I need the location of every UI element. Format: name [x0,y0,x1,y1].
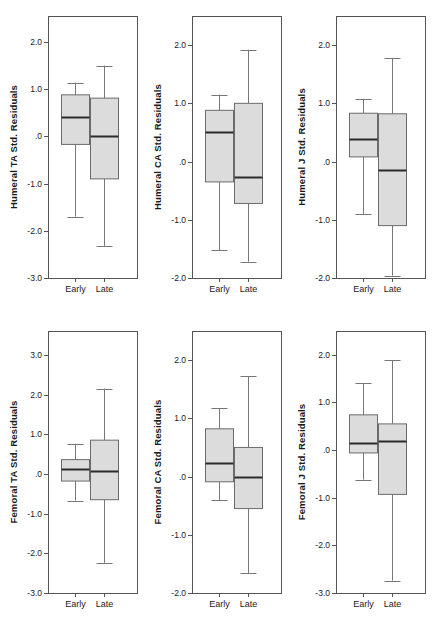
x-tick-label: Early [65,599,86,609]
iqr-box [206,429,234,482]
y-tick-label: -2.0 [171,588,186,598]
y-tick-label: -3.0 [315,588,330,598]
y-tick-label: -1.0 [171,215,186,225]
y-tick-label: 2.0 [30,390,42,400]
y-tick-label: 1.0 [318,98,330,108]
y-tick-label: -2.0 [315,540,330,550]
y-axis-title: Humeral TA Std. Residuals [8,85,19,209]
box-late [379,58,407,277]
y-tick-label: -2.0 [171,273,186,283]
y-tick-label: .0 [323,445,330,455]
x-tick-label: Early [353,284,374,294]
boxplot-panel-1: -2.0-1.0.01.02.0Humeral CA Std. Residual… [144,0,288,315]
y-tick-label: -1.0 [315,215,330,225]
iqr-box [62,95,90,145]
x-axis: EarlyLate [209,593,257,609]
y-tick-label: -3.0 [27,273,42,283]
y-tick-label: -2.0 [27,548,42,558]
y-tick-label: 1.0 [174,413,186,423]
y-axis-title: Humeral J Std. Residuals [296,88,307,206]
y-tick-label: -3.0 [27,588,42,598]
y-tick-label: .0 [323,157,330,167]
x-tick-label: Late [96,284,114,294]
iqr-box [235,103,263,203]
y-tick-label: .0 [179,157,186,167]
x-axis: EarlyLate [353,593,401,609]
x-axis: EarlyLate [65,593,113,609]
x-tick-label: Early [209,284,230,294]
boxplot-panel-0: -3.0-2.0-1.0.01.02.0Humeral TA Std. Resi… [0,0,144,315]
box-early [206,408,234,500]
y-tick-label: -2.0 [315,273,330,283]
y-tick-label: 1.0 [30,84,42,94]
iqr-box [91,440,119,500]
y-axis: -3.0-2.0-1.0.01.02.0 [27,37,48,283]
y-tick-label: -1.0 [27,179,42,189]
box-late [235,50,263,263]
iqr-box [379,424,407,495]
y-tick-label: 2.0 [318,350,330,360]
y-tick-label: 1.0 [174,98,186,108]
x-axis: EarlyLate [353,278,401,294]
boxplot-panel-4: -2.0-1.0.01.02.0Femoral CA Std. Residual… [144,315,288,630]
iqr-box [350,113,378,157]
x-tick-label: Late [384,284,402,294]
x-axis: EarlyLate [65,278,113,294]
x-tick-label: Early [65,284,86,294]
y-tick-label: -1.0 [171,530,186,540]
iqr-box [206,110,234,182]
y-tick-label: 1.0 [318,397,330,407]
y-axis-title: Femoral J Std. Residuals [296,404,307,521]
y-axis: -2.0-1.0.01.02.0 [171,355,192,598]
y-tick-label: -2.0 [27,226,42,236]
y-axis-title: Femoral TA Std. Residuals [8,400,19,523]
y-tick-label: 1.0 [30,429,42,439]
y-tick-label: .0 [179,472,186,482]
y-tick-label: -1.0 [315,493,330,503]
x-tick-label: Early [353,599,374,609]
box-early [350,383,378,480]
box-early [62,83,90,218]
y-axis: -3.0-2.0-1.0.01.02.0 [315,350,336,598]
y-tick-label: .0 [35,469,42,479]
box-late [91,389,119,564]
iqr-box [91,98,119,179]
x-tick-label: Late [240,284,258,294]
y-tick-label: 3.0 [30,350,42,360]
y-axis-title: Humeral CA Std. Residuals [152,84,163,210]
x-tick-label: Late [96,599,114,609]
boxplot-panel-2: -2.0-1.0.01.02.0Humeral J Std. Residuals… [288,0,432,315]
box-early [206,95,234,251]
y-axis-title: Femoral CA Std. Residuals [152,400,163,525]
x-tick-label: Late [384,599,402,609]
y-tick-label: 2.0 [318,40,330,50]
boxplot-panel-5: -3.0-2.0-1.0.01.02.0Femoral J Std. Resid… [288,315,432,630]
y-axis: -2.0-1.0.01.02.0 [315,40,336,283]
box-late [379,360,407,581]
y-tick-label: 2.0 [174,40,186,50]
box-late [91,66,119,247]
boxplot-panel-3: -3.0-2.0-1.0.01.02.03.0Femoral TA Std. R… [0,315,144,630]
x-tick-label: Late [240,599,258,609]
y-tick-label: .0 [35,131,42,141]
iqr-box [350,415,378,453]
y-tick-label: 2.0 [174,355,186,365]
boxplot-figure: -3.0-2.0-1.0.01.02.0Humeral TA Std. Resi… [0,0,432,631]
y-tick-label: -1.0 [27,509,42,519]
box-late [235,376,263,573]
box-early [350,99,378,215]
x-tick-label: Early [209,599,230,609]
y-axis: -3.0-2.0-1.0.01.02.03.0 [27,350,48,598]
y-axis: -2.0-1.0.01.02.0 [171,40,192,283]
box-early [62,444,90,502]
x-axis: EarlyLate [209,278,257,294]
y-tick-label: 2.0 [30,37,42,47]
